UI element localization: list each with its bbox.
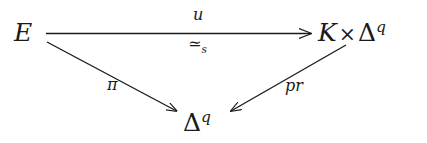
delta-symbol: Δ: [183, 108, 201, 137]
commutative-diagram: E K×Δq Δq u ≃s π pr: [0, 0, 427, 143]
simeq-subscript: s: [201, 43, 206, 55]
edge-label-pr-text: pr: [285, 76, 303, 95]
node-delta-q: Δq: [183, 110, 211, 135]
edge-label-u-text: u: [193, 5, 203, 24]
edge-label-pi: π: [107, 77, 118, 93]
node-K-label: K: [318, 18, 337, 47]
node-E-label: E: [14, 18, 32, 47]
edge-label-u: u: [193, 7, 203, 23]
edge-label-simeq-s: ≃s: [188, 36, 207, 55]
times-symbol: ×: [337, 22, 358, 46]
edge-label-pr: pr: [285, 78, 303, 94]
node-E: E: [14, 20, 32, 45]
simeq-symbol: ≃: [188, 34, 201, 53]
node-KxDq-superscript: q: [376, 18, 386, 36]
node-Dq-superscript: q: [201, 108, 211, 126]
node-K-times-delta-q: K×Δq: [318, 20, 386, 45]
edge-label-pi-text: π: [107, 75, 118, 94]
delta-symbol: Δ: [358, 18, 376, 47]
